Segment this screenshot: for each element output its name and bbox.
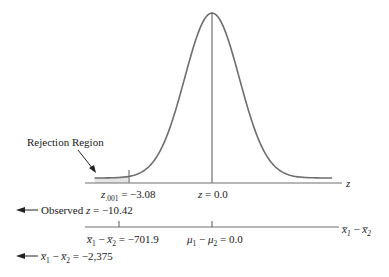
hypothesis-test-diagram: z Rejection Region z.001 = −3.08 z = 0.0… xyxy=(0,0,389,277)
diff-center-value: = 0.0 xyxy=(217,233,243,245)
z-critical-subscript: .001 xyxy=(105,194,118,203)
rejection-arrow-head xyxy=(89,165,96,173)
diff-critical-value: = −701.9 xyxy=(116,233,159,245)
observed-z-prefix: Observed xyxy=(41,204,86,216)
diff-axis-label: x̅1 − x̅2 xyxy=(341,223,371,238)
minus-sign: − xyxy=(50,250,62,262)
minus-sign: − xyxy=(96,233,108,245)
normal-curve xyxy=(95,13,333,178)
z-critical-label: z.001 = −3.08 xyxy=(100,188,156,203)
diff-critical-label: x̅1 − x̅2 = −701.9 xyxy=(86,233,159,248)
minus-sign: − xyxy=(351,223,363,235)
minus-sign: − xyxy=(196,233,208,245)
z-axis-label: z xyxy=(345,177,351,189)
z-center-label: z = 0.0 xyxy=(197,188,228,200)
rejection-region-label: Rejection Region xyxy=(27,136,104,148)
left-arrow-icon xyxy=(16,253,25,259)
rejection-arrow-line xyxy=(78,150,93,169)
observed-diff-value: = −2,375 xyxy=(70,250,113,262)
left-arrow-icon xyxy=(16,207,25,213)
observed-z-value: = −10.42 xyxy=(90,204,133,216)
z-critical-value: = −3.08 xyxy=(118,188,156,200)
diff-center-label: μ1 − μ2 = 0.0 xyxy=(186,233,243,248)
z-center-value: = 0.0 xyxy=(202,188,228,200)
observed-diff-label: x̅1 − x̅2 = −2,375 xyxy=(40,250,113,265)
subscript: 2 xyxy=(367,229,371,238)
observed-z-label: Observed z = −10.42 xyxy=(41,204,133,216)
